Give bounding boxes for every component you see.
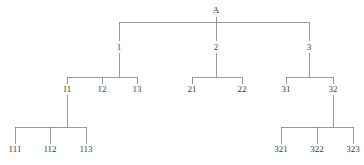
- tree-node-22[interactable]: 22: [238, 84, 247, 94]
- tree-node-2[interactable]: 2: [214, 42, 219, 52]
- tree-node-32[interactable]: 32: [329, 84, 338, 94]
- tree-node-111[interactable]: 111: [9, 144, 22, 154]
- tree-connector-lines: [0, 0, 364, 165]
- tree-node-12[interactable]: 12: [98, 84, 107, 94]
- tree-diagram: A12311121321223132111112113321322323: [0, 0, 364, 165]
- tree-node-31[interactable]: 31: [282, 84, 291, 94]
- tree-node-11[interactable]: 11: [63, 84, 72, 94]
- tree-node-A[interactable]: A: [213, 5, 220, 15]
- tree-node-13[interactable]: 13: [133, 84, 142, 94]
- tree-node-3[interactable]: 3: [307, 42, 312, 52]
- tree-node-1[interactable]: 1: [117, 42, 122, 52]
- tree-node-113[interactable]: 113: [79, 144, 92, 154]
- tree-node-112[interactable]: 112: [43, 144, 56, 154]
- tree-node-323[interactable]: 323: [346, 144, 360, 154]
- tree-node-321[interactable]: 321: [274, 144, 288, 154]
- tree-node-322[interactable]: 322: [310, 144, 324, 154]
- tree-node-21[interactable]: 21: [188, 84, 197, 94]
